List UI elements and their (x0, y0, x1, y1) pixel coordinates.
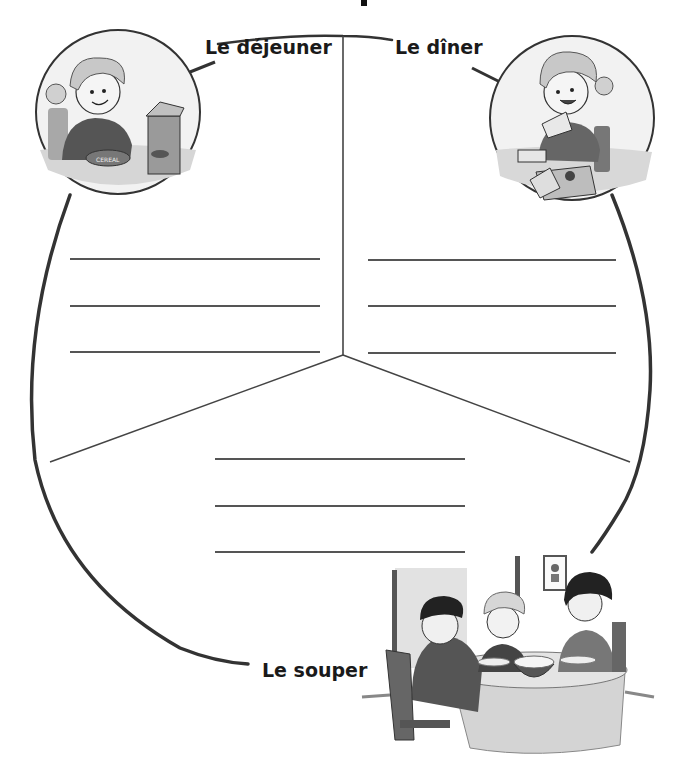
writing-line-breakfast-2[interactable] (70, 305, 320, 307)
writing-line-supper-1[interactable] (215, 458, 465, 460)
writing-line-breakfast-1[interactable] (70, 258, 320, 260)
writing-line-lunch-2[interactable] (368, 305, 616, 307)
section-label-supper: Le souper (262, 659, 367, 681)
writing-line-supper-2[interactable] (215, 505, 465, 507)
writing-line-breakfast-3[interactable] (70, 351, 320, 353)
label-connectors (190, 62, 500, 82)
supper-illustration (362, 556, 654, 753)
writing-line-lunch-1[interactable] (368, 259, 616, 261)
lunch-illustration (490, 36, 654, 200)
writing-line-lunch-3[interactable] (368, 352, 616, 354)
cereal-bowl-text: CEREAL (96, 156, 120, 163)
breakfast-illustration: CEREAL (36, 30, 200, 194)
section-label-breakfast: Le déjeuner (205, 36, 332, 58)
section-label-lunch: Le dîner (395, 36, 483, 58)
writing-line-supper-3[interactable] (215, 551, 465, 553)
